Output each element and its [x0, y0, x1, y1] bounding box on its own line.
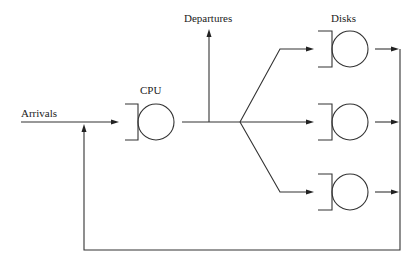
branch-to-disk1: [240, 47, 314, 123]
disk3-queue-bracket: [318, 174, 332, 210]
disk2-server-circle: [332, 104, 368, 140]
cpu-server-circle: [138, 104, 174, 140]
departures-label: Departures: [184, 12, 232, 24]
cpu-queue-bracket: [125, 104, 138, 140]
disk2-output-arrow: [375, 120, 399, 125]
disk1-output-arrow: [375, 47, 399, 52]
disks-label: Disks: [331, 12, 356, 24]
cpu-label: CPU: [140, 84, 161, 96]
disk2-queue-bracket: [318, 104, 332, 140]
arrivals-arrow: [21, 120, 119, 125]
cpu-queue: [125, 104, 174, 140]
branch-to-disk2: [240, 120, 314, 125]
feedback-loop: [82, 49, 401, 250]
branch-to-disk3: [240, 122, 314, 195]
disk3-output-arrow: [375, 190, 399, 195]
departures-arrow: [207, 29, 212, 122]
disk1-queue-bracket: [318, 31, 332, 67]
arrivals-label: Arrivals: [21, 107, 57, 119]
disk3-queue: [318, 174, 368, 210]
disk2-queue: [318, 104, 368, 140]
queueing-network-diagram: Arrivals CPU Departures Disks: [0, 0, 419, 261]
disk3-server-circle: [332, 174, 368, 210]
disk1-server-circle: [332, 31, 368, 67]
disk1-queue: [318, 31, 368, 67]
